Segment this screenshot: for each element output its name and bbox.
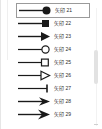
hollow-triangle-icon xyxy=(17,69,51,82)
filled-triangle-icon xyxy=(17,30,51,43)
arrow-style-item[interactable]: 矢印 24 xyxy=(16,43,90,56)
filled-circle-icon xyxy=(18,4,52,17)
arrow-style-item[interactable]: 矢印 23 xyxy=(16,30,90,43)
scrollbar-bottom-tick xyxy=(94,124,98,125)
arrow-style-label: 矢印 27 xyxy=(51,85,89,92)
hollow-square-icon xyxy=(17,56,51,69)
arrow-style-label: 矢印 28 xyxy=(51,98,89,105)
arrow-style-label: 矢印 29 xyxy=(51,111,89,118)
arrow-style-item[interactable]: 矢印 22 xyxy=(16,17,90,30)
stealth-arrow-icon xyxy=(17,108,51,121)
vertical-scrollbar[interactable] xyxy=(96,2,100,127)
arrow-style-item[interactable]: 矢印 26 xyxy=(16,69,90,82)
arrow-style-label: 矢印 22 xyxy=(51,20,89,27)
arrow-style-item[interactable]: 矢印 21 xyxy=(16,3,90,18)
arrow-style-item[interactable]: 矢印 27 xyxy=(16,82,90,95)
arrow-style-item[interactable]: 矢印 29 xyxy=(16,108,90,121)
arrow-style-item[interactable]: 矢印 28 xyxy=(16,95,90,108)
arrow-style-gallery-panel: 矢印 21矢印 22矢印 23矢印 24矢印 25矢印 26矢印 27矢印 28… xyxy=(0,0,102,129)
arrow-style-label: 矢印 21 xyxy=(52,7,88,14)
arrow-style-label: 矢印 24 xyxy=(51,46,89,53)
open-arrow-icon xyxy=(17,95,51,108)
arrow-style-item[interactable]: 矢印 25 xyxy=(16,56,90,69)
bar-tick-icon xyxy=(17,82,51,95)
hollow-circle-icon xyxy=(17,43,51,56)
scrollbar-thumb[interactable] xyxy=(94,50,98,84)
arrow-style-label: 矢印 25 xyxy=(51,59,89,66)
arrow-style-label: 矢印 23 xyxy=(51,33,89,40)
arrow-style-label: 矢印 26 xyxy=(51,72,89,79)
filled-square-icon xyxy=(17,17,51,30)
arrow-style-list: 矢印 21矢印 22矢印 23矢印 24矢印 25矢印 26矢印 27矢印 28… xyxy=(16,3,92,127)
panel-left-edge-secondary xyxy=(7,0,8,60)
panel-left-edge xyxy=(0,0,1,129)
